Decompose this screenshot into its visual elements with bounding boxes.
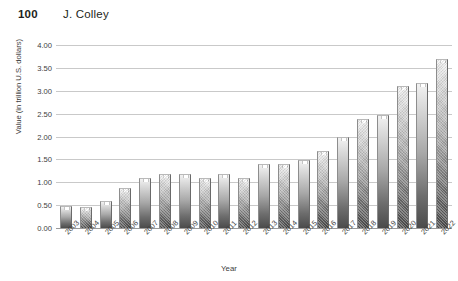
y-axis-tick-label: 1.50 xyxy=(22,155,52,164)
bar-top-notch xyxy=(123,189,129,192)
y-axis-tick-label: 3.00 xyxy=(22,86,52,95)
gridline xyxy=(56,45,452,46)
bar-top-notch xyxy=(401,87,407,90)
bar-top-notch xyxy=(222,175,228,178)
bar-top-notch xyxy=(203,179,209,182)
y-axis-tick-labels: 4.003.503.002.502.001.501.000.500.00 xyxy=(18,45,52,228)
bar xyxy=(218,174,230,228)
bar xyxy=(416,83,428,228)
bar-top-notch xyxy=(64,207,70,210)
bar xyxy=(357,119,369,228)
bar xyxy=(397,86,409,228)
y-axis-tick-label: 0.50 xyxy=(22,201,52,210)
bar xyxy=(179,174,191,228)
y-axis-tick-label: 3.50 xyxy=(22,63,52,72)
bar-top-notch xyxy=(143,179,149,182)
bar xyxy=(199,178,211,228)
gridline xyxy=(56,68,452,69)
bar-top-notch xyxy=(440,60,446,63)
bar-top-notch xyxy=(84,208,90,211)
x-axis-tick-labels: 2003200420052006200720082009201020112012… xyxy=(56,230,452,264)
bar xyxy=(317,151,329,228)
gridline xyxy=(56,91,452,92)
bar-top-notch xyxy=(242,179,248,182)
author-name: J. Colley xyxy=(63,8,109,20)
y-axis-tick-label: 2.00 xyxy=(22,132,52,141)
gridline xyxy=(56,159,452,160)
bar-top-notch xyxy=(302,161,308,164)
bar xyxy=(258,164,270,228)
y-axis-tick-label: 1.00 xyxy=(22,178,52,187)
y-axis-tick-label: 4.00 xyxy=(22,41,52,50)
y-axis-tick-label: 2.50 xyxy=(22,109,52,118)
bar-top-notch xyxy=(420,84,426,87)
bar xyxy=(298,160,310,228)
bar xyxy=(436,59,448,228)
bar xyxy=(238,178,250,228)
bar-top-notch xyxy=(361,120,367,123)
bar-top-notch xyxy=(163,175,169,178)
bar-top-notch xyxy=(282,165,288,168)
bar-top-notch xyxy=(321,152,327,155)
bar-top-notch xyxy=(381,116,387,119)
page-header: 100 J. Colley xyxy=(0,0,458,32)
bar-top-notch xyxy=(183,175,189,178)
bar xyxy=(278,164,290,228)
gridline xyxy=(56,182,452,183)
bar xyxy=(377,115,389,228)
gridline xyxy=(56,205,452,206)
y-axis-tick-label: 0.00 xyxy=(22,224,52,233)
bar-top-notch xyxy=(262,165,268,168)
bar-top-notch xyxy=(341,138,347,141)
gridline xyxy=(56,137,452,138)
plot-area xyxy=(56,45,452,228)
bar xyxy=(159,174,171,228)
x-axis-title: Year xyxy=(0,264,458,273)
bar-top-notch xyxy=(104,202,110,205)
bar-chart: Value (in trillion U.S. dollars) 4.003.5… xyxy=(0,32,458,281)
bar xyxy=(139,178,151,228)
gridline xyxy=(56,114,452,115)
bar xyxy=(337,137,349,228)
